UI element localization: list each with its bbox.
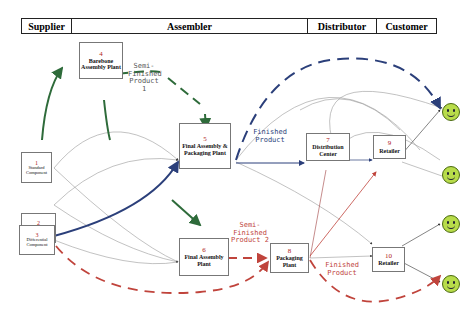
node-8-packaging-plant: 8 Packaging Plant bbox=[270, 243, 309, 273]
label-finished-product-blue: Finished Product bbox=[250, 129, 290, 144]
node-3-differential-component: 3 Differential Component bbox=[19, 225, 55, 255]
node-1-standard-component: 1 Standard Component bbox=[21, 152, 52, 183]
customer-smiley-icon bbox=[442, 215, 460, 233]
node-4-barebone-assembly-plant: 4 Barebone Assembly Plant bbox=[79, 42, 123, 79]
node-6-final-assembly-plant: 6 Final Assembly Plant bbox=[179, 238, 229, 276]
node-5-final-assembly-packaging-plant: 5 Final Assembly & Packaging Plant bbox=[179, 123, 231, 169]
node-9-retailer: 9 Retailer bbox=[373, 135, 406, 159]
node-10-retailer: 10 Retailer bbox=[372, 247, 405, 272]
customer-smiley-icon bbox=[442, 103, 460, 121]
label-semi-finished-product-1: Semi- Finished Product 1 bbox=[128, 63, 160, 94]
label-semi-finished-product-2: Semi- Finished Product 2 bbox=[230, 222, 270, 245]
customer-smiley-icon bbox=[442, 166, 460, 184]
customer-smiley-icon bbox=[442, 275, 460, 293]
node-7-distribution-center: 7 Distribution Center bbox=[306, 133, 350, 161]
label-finished-product-red: Finished Product bbox=[322, 262, 362, 277]
